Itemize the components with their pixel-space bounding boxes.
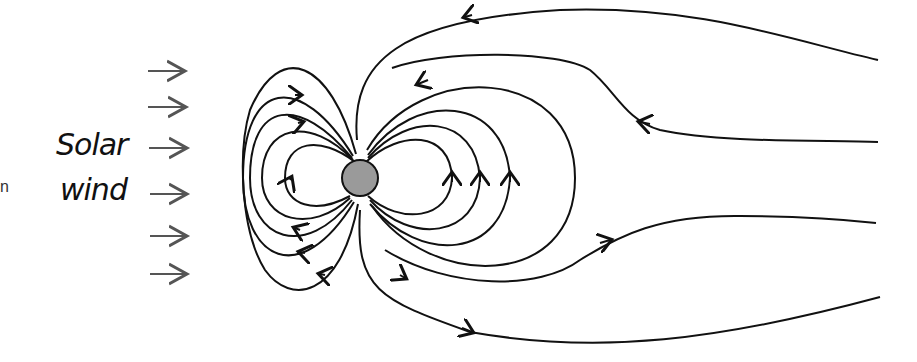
earth-icon	[342, 160, 378, 196]
magnetosphere-diagram: n Solar wind	[0, 0, 917, 362]
field-lines-svg	[0, 0, 917, 362]
solar-wind-arrows	[148, 71, 185, 274]
field-lines	[243, 10, 880, 343]
